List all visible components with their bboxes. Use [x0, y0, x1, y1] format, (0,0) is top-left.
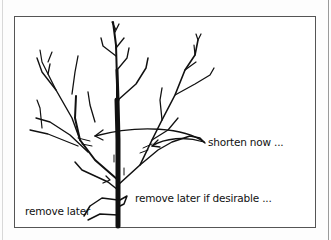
- right-branch: [118, 40, 198, 185]
- shorten-arrow: [95, 129, 204, 142]
- tree-illustration: [0, 0, 331, 240]
- label-remove-later-if-desirable: remove later if desirable ...: [135, 192, 272, 204]
- left-branch: [75, 96, 118, 180]
- label-shorten-now: shorten now ...: [208, 136, 283, 148]
- label-remove-later: remove later: [25, 205, 90, 217]
